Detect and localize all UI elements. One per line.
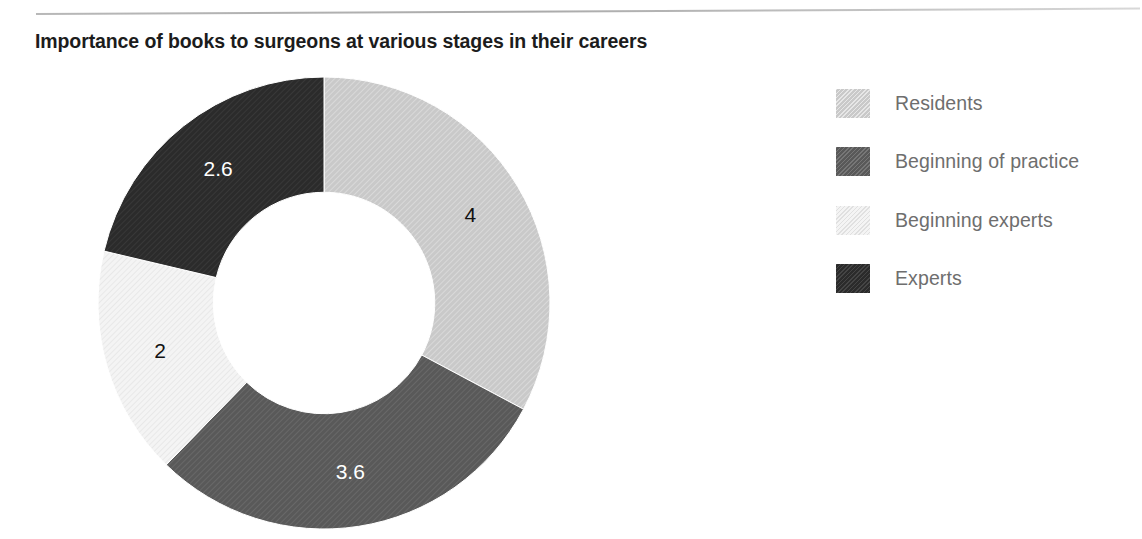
donut-value-label-residents: 4: [464, 203, 476, 226]
legend-swatch-experts: [836, 264, 870, 293]
donut-chart-svg: 43.622.6: [98, 77, 550, 529]
legend-label-beginning-of-practice: Beginning of practice: [895, 150, 1079, 173]
legend-label-residents: Residents: [895, 92, 983, 115]
donut-value-label-experts: 2.6: [203, 157, 232, 180]
legend-item-residents[interactable]: Residents: [836, 74, 1136, 133]
legend-item-experts[interactable]: Experts: [836, 250, 1136, 309]
legend-item-beginning-of-practice[interactable]: Beginning of practice: [836, 133, 1136, 192]
legend-label-experts: Experts: [895, 267, 962, 290]
legend-swatch-beginning-experts: [836, 206, 870, 235]
legend-item-beginning-experts[interactable]: Beginning experts: [836, 191, 1136, 250]
chart-title: Importance of books to surgeons at vario…: [35, 30, 647, 53]
donut-slice-residents[interactable]: [324, 77, 550, 409]
legend-swatch-residents: [836, 89, 870, 118]
chart-legend: Residents Beginning of practice Beginnin…: [836, 74, 1136, 308]
legend-label-beginning-experts: Beginning experts: [895, 209, 1053, 232]
donut-value-label-beginning-experts: 2: [154, 339, 166, 362]
header-divider: [36, 8, 1140, 15]
donut-chart: 43.622.6: [98, 77, 550, 529]
donut-value-label-beginning-of-practice: 3.6: [336, 460, 365, 483]
donut-slices: [98, 77, 550, 529]
legend-swatch-beginning-of-practice: [836, 147, 870, 176]
